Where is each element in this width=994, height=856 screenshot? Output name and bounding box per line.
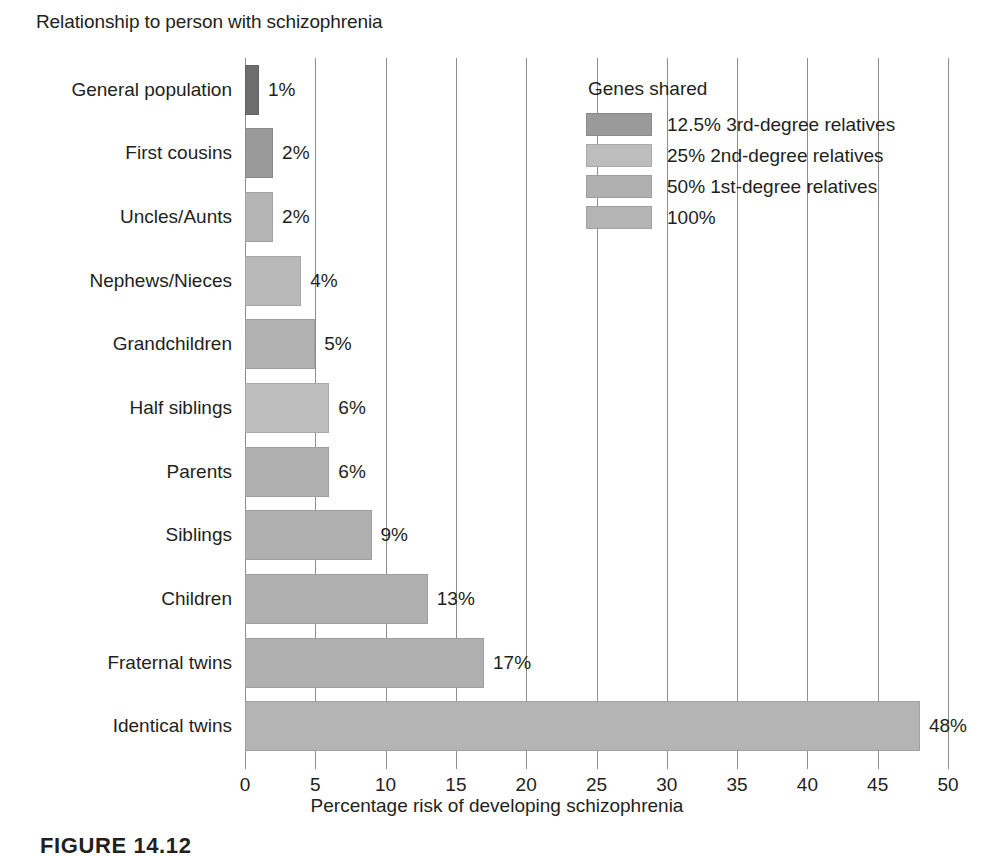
x-tick-0 [245,758,246,769]
x-tick-label: 40 [797,774,818,796]
x-tick-20 [526,758,527,769]
x-tick-label: 35 [727,774,748,796]
legend-label: 100% [667,207,716,229]
bar[interactable] [245,256,301,306]
category-label: Uncles/Aunts [2,206,232,228]
legend-swatch [586,206,652,229]
y-axis-title: Relationship to person with schizophreni… [36,11,383,33]
x-tick-35 [737,758,738,769]
bar[interactable] [245,128,273,178]
bar[interactable] [245,319,315,369]
legend-item[interactable]: 12.5% 3rd-degree relatives [586,109,946,140]
legend-swatch [586,113,652,136]
legend-label: 50% 1st-degree relatives [667,176,877,198]
x-tick-45 [878,758,879,769]
legend-swatch [586,144,652,167]
bar-row[interactable]: 4% [245,256,948,306]
x-tick-label: 20 [516,774,537,796]
bar-value-label: 13% [437,588,475,610]
category-label: Fraternal twins [2,652,232,674]
x-tick-label: 25 [586,774,607,796]
category-label: Grandchildren [2,333,232,355]
bar-row[interactable]: 6% [245,383,948,433]
legend-label: 12.5% 3rd-degree relatives [667,114,895,136]
category-label: Parents [2,461,232,483]
bar-row[interactable]: 17% [245,638,948,688]
x-tick-10 [386,758,387,769]
figure-caption: FIGURE 14.12 [40,833,191,856]
category-label: Children [2,588,232,610]
category-label: First cousins [2,142,232,164]
bar-value-label: 5% [324,333,351,355]
x-tick-40 [807,758,808,769]
bar-chart: Relationship to person with schizophreni… [0,0,994,856]
category-label: General population [2,79,232,101]
legend-item-list: 12.5% 3rd-degree relatives25% 2nd-degree… [586,109,946,233]
category-label-list: General populationFirst cousinsUncles/Au… [0,58,232,758]
x-axis-title: Percentage risk of developing schizophre… [0,795,994,817]
bar[interactable] [245,574,428,624]
legend: Genes shared 12.5% 3rd-degree relatives2… [586,78,946,233]
bar-row[interactable]: 9% [245,510,948,560]
bar-row[interactable]: 6% [245,447,948,497]
bar-value-label: 1% [268,79,295,101]
x-tick-label: 15 [445,774,466,796]
x-tick-label: 0 [240,774,251,796]
x-tick-50 [948,758,949,769]
bar-value-label: 17% [493,652,531,674]
category-label: Identical twins [2,715,232,737]
x-tick-label: 5 [310,774,321,796]
bar[interactable] [245,447,329,497]
legend-item[interactable]: 25% 2nd-degree relatives [586,140,946,171]
x-tick-25 [597,758,598,769]
bar[interactable] [245,383,329,433]
category-label: Half siblings [2,397,232,419]
legend-label: 25% 2nd-degree relatives [667,145,884,167]
x-tick-label: 45 [867,774,888,796]
bar-value-label: 2% [282,142,309,164]
gridline-50 [948,58,949,758]
bar-value-label: 4% [310,270,337,292]
x-tick-label: 10 [375,774,396,796]
bar-value-label: 9% [381,524,408,546]
x-tick-label: 50 [937,774,958,796]
category-label: Nephews/Nieces [2,270,232,292]
bar-row[interactable]: 13% [245,574,948,624]
bar-row[interactable]: 5% [245,319,948,369]
bar-row[interactable]: 48% [245,701,948,751]
bar-value-label: 2% [282,206,309,228]
x-tick-label: 30 [656,774,677,796]
bar-value-label: 48% [929,715,967,737]
bar[interactable] [245,510,372,560]
x-axis: 05101520253035404550 [245,758,948,759]
legend-item[interactable]: 50% 1st-degree relatives [586,171,946,202]
bar[interactable] [245,701,920,751]
legend-swatch [586,175,652,198]
x-tick-30 [667,758,668,769]
bar[interactable] [245,638,484,688]
legend-item[interactable]: 100% [586,202,946,233]
legend-title: Genes shared [588,78,946,100]
bar[interactable] [245,192,273,242]
x-tick-15 [456,758,457,769]
bar[interactable] [245,65,259,115]
bar-value-label: 6% [338,461,365,483]
x-tick-5 [315,758,316,769]
category-label: Siblings [2,524,232,546]
bar-value-label: 6% [338,397,365,419]
